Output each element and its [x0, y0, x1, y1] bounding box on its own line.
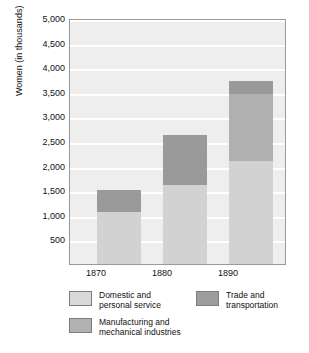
- y-tick-label: 3,500: [17, 88, 65, 98]
- dark-gray-swatch-icon: [196, 291, 219, 306]
- bar-segment-domestic: [97, 212, 141, 264]
- legend-item-manufacturing: Manufacturing and mechanical industries: [69, 317, 181, 337]
- bar-segment-domestic: [163, 185, 207, 264]
- y-tick-label: 2,500: [17, 137, 65, 147]
- y-tick-label: 4,500: [17, 39, 65, 49]
- y-tick-label: 500: [17, 235, 65, 245]
- bar-segment-domestic: [229, 161, 273, 264]
- chart-legend: Domestic and personal service Trade and …: [69, 290, 309, 348]
- gridline: [70, 69, 285, 71]
- stacked-bar-chart: Women (in thousands) 5,000 4,500 4,000 3…: [0, 0, 309, 353]
- bar-1880: [163, 135, 207, 264]
- bar-segment-manufacturing: [229, 94, 273, 160]
- y-tick-label: 1,000: [17, 211, 65, 221]
- gridline: [70, 45, 285, 47]
- plot-area: [69, 19, 286, 265]
- y-tick-label: 5,000: [17, 14, 65, 24]
- legend-item-trade: Trade and transportation: [196, 290, 278, 310]
- legend-label: Domestic and personal service: [99, 290, 161, 310]
- bar-1870: [97, 190, 141, 264]
- medium-gray-swatch-icon: [69, 318, 92, 333]
- bar-segment-trade: [229, 81, 273, 95]
- x-tick-label-1870: 1870: [66, 268, 126, 278]
- light-gray-swatch-icon: [69, 291, 92, 306]
- legend-label: Trade and transportation: [226, 290, 278, 310]
- x-tick-label-1890: 1890: [198, 268, 258, 278]
- legend-label: Manufacturing and mechanical industries: [99, 317, 181, 337]
- y-tick-label: 2,000: [17, 162, 65, 172]
- gridline: [70, 20, 285, 22]
- bar-segment-trade: [97, 190, 141, 212]
- y-tick-label: 1,500: [17, 186, 65, 196]
- bar-1890: [229, 81, 273, 264]
- y-tick-label: 3,000: [17, 112, 65, 122]
- x-tick-label-1880: 1880: [132, 268, 192, 278]
- y-tick-label: 4,000: [17, 63, 65, 73]
- bar-segment-trade: [163, 135, 207, 186]
- legend-item-domestic: Domestic and personal service: [69, 290, 161, 310]
